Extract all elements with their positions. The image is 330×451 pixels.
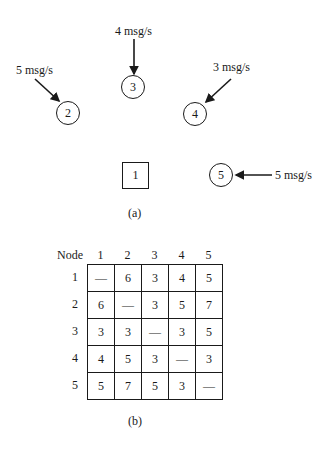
table-cell: 3 (196, 346, 223, 373)
arrow-node-2 (35, 79, 59, 101)
column-header: 3 (141, 248, 168, 263)
arrows-layer (0, 0, 330, 220)
table-cell: 5 (88, 373, 115, 400)
node-4: 4 (183, 102, 207, 126)
row-label: 4 (64, 351, 78, 366)
table-cell: 3 (169, 373, 196, 400)
table-cell: 4 (169, 265, 196, 292)
table-row: 4 5 3 — 3 (88, 346, 223, 373)
table-cell: — (142, 319, 169, 346)
node-1: 1 (122, 162, 149, 189)
table-cell: — (169, 346, 196, 373)
table-cell: 7 (196, 292, 223, 319)
row-label: 1 (64, 270, 78, 285)
table-header-node: Node (57, 248, 83, 263)
node-2: 2 (56, 101, 80, 125)
table-cell: 4 (88, 346, 115, 373)
node-5-label: 5 (218, 168, 224, 183)
matrix-grid: — 6 3 4 5 6 — 3 5 7 3 3 — 3 5 4 5 3 — 3 (87, 264, 223, 400)
table-cell: 5 (196, 265, 223, 292)
column-header: 1 (87, 248, 114, 263)
column-header: 5 (195, 248, 222, 263)
node-2-label: 2 (65, 106, 71, 121)
table-cell: 5 (142, 373, 169, 400)
caption-b: (b) (128, 414, 142, 429)
table-cell: — (88, 265, 115, 292)
row-label: 3 (64, 324, 78, 339)
node-4-label: 4 (192, 107, 198, 122)
row-label: 5 (64, 378, 78, 393)
table-cell: 3 (142, 292, 169, 319)
rate-label-node-3: 4 msg/s (115, 24, 152, 39)
arrow-node-4 (206, 79, 231, 102)
rate-label-node-2: 5 msg/s (16, 63, 53, 78)
rate-label-node-5: 5 msg/s (275, 168, 312, 183)
node-5: 5 (209, 163, 233, 187)
table-cell: 3 (88, 319, 115, 346)
rate-label-node-4: 3 msg/s (213, 60, 250, 75)
table-cell: 3 (142, 346, 169, 373)
table-cell: 6 (115, 265, 142, 292)
column-header: 4 (168, 248, 195, 263)
table-cell: 3 (115, 319, 142, 346)
table-row: 5 7 5 3 — (88, 373, 223, 400)
node-1-label: 1 (133, 168, 139, 183)
column-header: 2 (114, 248, 141, 263)
table-cell: 7 (115, 373, 142, 400)
table-cell: 3 (142, 265, 169, 292)
node-3: 3 (121, 75, 145, 99)
table-cell: — (115, 292, 142, 319)
table-cell: 6 (88, 292, 115, 319)
table-row: 6 — 3 5 7 (88, 292, 223, 319)
table-cell: 5 (169, 292, 196, 319)
table-cell: 5 (115, 346, 142, 373)
table-cell: 3 (169, 319, 196, 346)
node-3-label: 3 (130, 80, 136, 95)
table-cell: 5 (196, 319, 223, 346)
caption-a: (a) (128, 206, 141, 221)
table-cell: — (196, 373, 223, 400)
table-row: — 6 3 4 5 (88, 265, 223, 292)
table-row: 3 3 — 3 5 (88, 319, 223, 346)
row-label: 2 (64, 297, 78, 312)
